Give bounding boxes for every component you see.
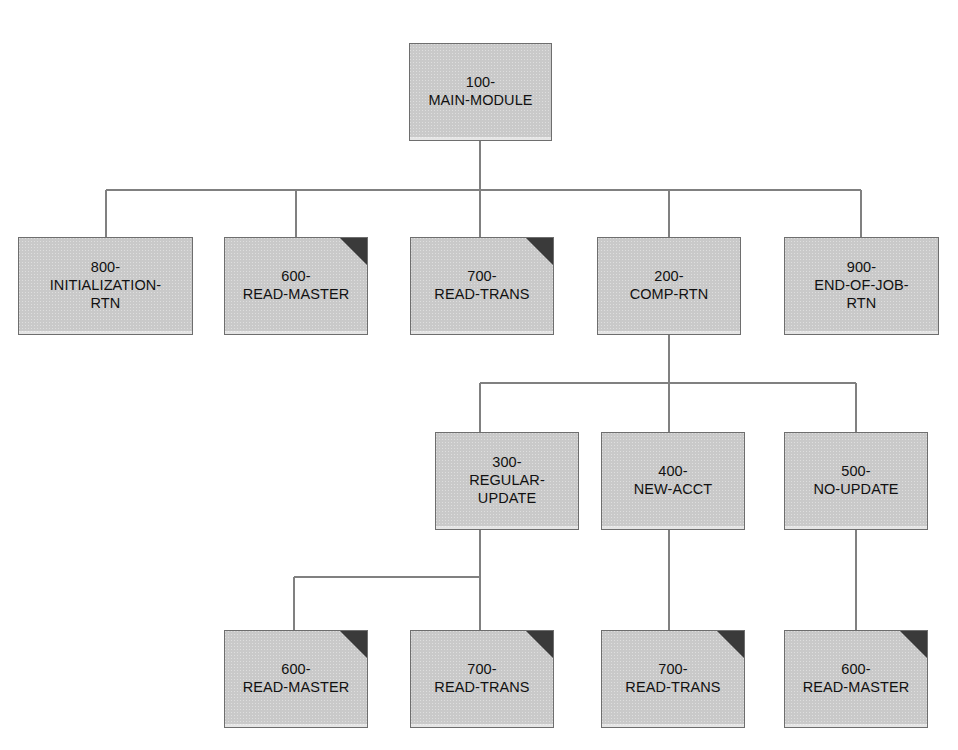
module-label-m300: 300- REGULAR- UPDATE [465, 454, 549, 507]
predefined-module-corner-icon [526, 238, 553, 265]
module-label-m100: 100- MAIN-MODULE [424, 74, 536, 110]
box-edge-highlight [436, 526, 578, 529]
module-label-m900: 900- END-OF-JOB- RTN [810, 259, 913, 312]
box-edge-highlight [602, 526, 744, 529]
module-box-m300[interactable]: 300- REGULAR- UPDATE [435, 432, 579, 530]
module-label-m600b: 600- READ-MASTER [239, 661, 354, 697]
box-edge-highlight [411, 331, 553, 334]
module-box-m800[interactable]: 800- INITIALIZATION- RTN [18, 237, 193, 335]
box-edge-highlight [785, 724, 927, 727]
module-box-m600a[interactable]: 600- READ-MASTER [224, 237, 368, 335]
box-edge-highlight [410, 137, 551, 140]
predefined-module-corner-icon [340, 238, 367, 265]
module-label-m700a: 700- READ-TRANS [430, 268, 533, 304]
module-label-m700b: 700- READ-TRANS [430, 661, 533, 697]
module-label-m700c: 700- READ-TRANS [621, 661, 724, 697]
module-box-m100[interactable]: 100- MAIN-MODULE [409, 43, 552, 141]
module-box-m200[interactable]: 200- COMP-RTN [597, 237, 741, 335]
box-edge-highlight [19, 331, 192, 334]
predefined-module-corner-icon [526, 631, 553, 658]
module-box-m700a[interactable]: 700- READ-TRANS [410, 237, 554, 335]
module-label-m600a: 600- READ-MASTER [239, 268, 354, 304]
module-box-m700c[interactable]: 700- READ-TRANS [601, 630, 745, 728]
box-edge-highlight [602, 724, 744, 727]
module-box-m700b[interactable]: 700- READ-TRANS [410, 630, 554, 728]
box-edge-highlight [785, 526, 927, 529]
predefined-module-corner-icon [717, 631, 744, 658]
box-edge-highlight [411, 724, 553, 727]
structure-chart: 100- MAIN-MODULE800- INITIALIZATION- RTN… [0, 0, 958, 750]
module-label-m200: 200- COMP-RTN [626, 268, 713, 304]
box-edge-highlight [598, 331, 740, 334]
box-edge-highlight [785, 331, 938, 334]
box-edge-highlight [225, 331, 367, 334]
module-box-m600c[interactable]: 600- READ-MASTER [784, 630, 928, 728]
module-label-m400: 400- NEW-ACCT [630, 463, 717, 499]
module-box-m400[interactable]: 400- NEW-ACCT [601, 432, 745, 530]
predefined-module-corner-icon [900, 631, 927, 658]
predefined-module-corner-icon [340, 631, 367, 658]
module-box-m900[interactable]: 900- END-OF-JOB- RTN [784, 237, 939, 335]
module-box-m500[interactable]: 500- NO-UPDATE [784, 432, 928, 530]
box-edge-highlight [225, 724, 367, 727]
module-label-m600c: 600- READ-MASTER [799, 661, 914, 697]
module-label-m800: 800- INITIALIZATION- RTN [46, 259, 166, 312]
module-label-m500: 500- NO-UPDATE [809, 463, 902, 499]
module-box-m600b[interactable]: 600- READ-MASTER [224, 630, 368, 728]
